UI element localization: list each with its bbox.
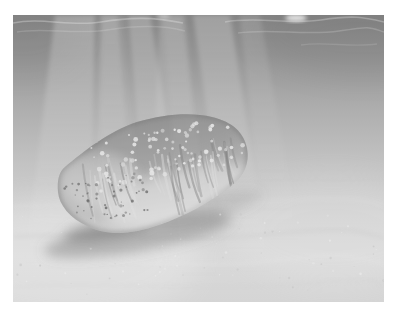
underwater-photo [13, 15, 384, 302]
underwater-scene [13, 15, 384, 302]
page [0, 0, 404, 319]
